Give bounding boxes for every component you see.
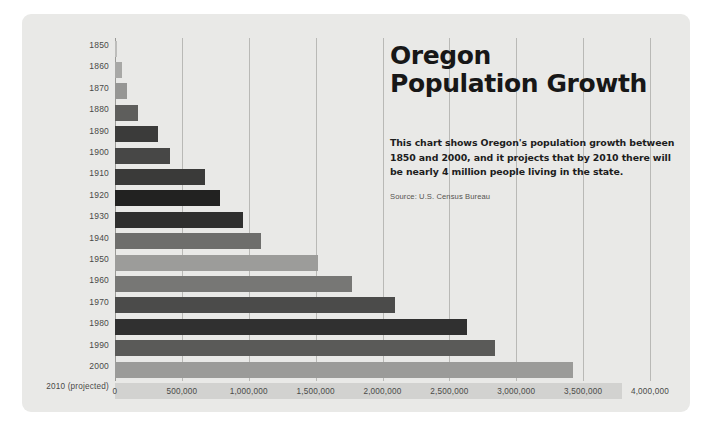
bar-row: 1960 — [115, 273, 650, 294]
bar-row: 2000 — [115, 359, 650, 380]
chart-card: 1850186018701880189019001910192019301940… — [22, 14, 690, 412]
bar — [115, 276, 352, 292]
bar-row: 1940 — [115, 231, 650, 252]
y-axis-label: 1960 — [89, 275, 109, 285]
title-line-2: Population Growth — [390, 70, 680, 98]
bar — [115, 62, 122, 78]
y-axis-label: 1910 — [89, 168, 109, 178]
x-axis-tick-label: 0 — [113, 387, 118, 396]
bar-row: 1950 — [115, 252, 650, 273]
bar — [115, 340, 495, 356]
bar — [115, 190, 220, 206]
bar — [115, 212, 243, 228]
bar — [115, 297, 395, 313]
bar — [115, 233, 261, 249]
y-axis-label: 1940 — [89, 233, 109, 243]
bar-row: 1880 — [115, 102, 650, 123]
bar — [115, 255, 318, 271]
x-axis-tick-label: 4,000,000 — [631, 387, 669, 396]
y-axis-label: 1990 — [89, 340, 109, 350]
y-axis-label: 2000 — [89, 361, 109, 371]
x-axis-tick-label: 3,000,000 — [497, 387, 535, 396]
x-axis: 0500,0001,000,0001,500,0002,000,0002,500… — [115, 387, 650, 403]
bar — [115, 148, 170, 164]
bar — [115, 169, 205, 185]
x-axis-tick-label: 3,500,000 — [564, 387, 602, 396]
bar — [115, 319, 467, 335]
bar — [115, 83, 127, 99]
bar-row: 1980 — [115, 316, 650, 337]
title-line-1: Oregon — [390, 42, 680, 70]
y-axis-label: 1970 — [89, 297, 109, 307]
page-title: Oregon Population Growth — [390, 42, 680, 98]
description-block: This chart shows Oregon's population gro… — [390, 136, 678, 180]
y-axis-label: 2010 (projected) — [46, 382, 109, 391]
x-axis-tick-label: 2,000,000 — [363, 387, 401, 396]
y-axis-label: 1890 — [89, 126, 109, 136]
y-axis-label: 1980 — [89, 318, 109, 328]
x-axis-tick-label: 2,500,000 — [430, 387, 468, 396]
bar-row: 1970 — [115, 295, 650, 316]
bar — [115, 41, 117, 57]
y-axis-label: 1950 — [89, 254, 109, 264]
bar — [115, 105, 138, 121]
bar — [115, 362, 573, 378]
bar-row: 1930 — [115, 209, 650, 230]
y-axis-label: 1930 — [89, 211, 109, 221]
bar — [115, 126, 158, 142]
description-text: This chart shows Oregon's population gro… — [390, 136, 678, 180]
y-axis-label: 1850 — [89, 40, 109, 50]
y-axis-label: 1880 — [89, 104, 109, 114]
y-axis-label: 1860 — [89, 61, 109, 71]
y-axis-label: 1870 — [89, 83, 109, 93]
x-axis-tick-label: 1,000,000 — [230, 387, 268, 396]
y-axis-label: 1920 — [89, 190, 109, 200]
y-axis-label: 1900 — [89, 147, 109, 157]
x-axis-tick-label: 1,500,000 — [297, 387, 335, 396]
bar-row: 1990 — [115, 338, 650, 359]
x-axis-tick-label: 500,000 — [166, 387, 197, 396]
source-note: Source: U.S. Census Bureau — [390, 192, 490, 201]
bar-row: 1920 — [115, 188, 650, 209]
